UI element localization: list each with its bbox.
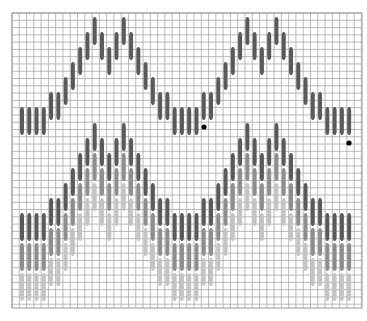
stitch	[202, 198, 206, 226]
stitch	[216, 243, 220, 271]
stitch	[340, 107, 344, 135]
stitch	[100, 32, 104, 60]
stitch	[78, 183, 82, 211]
stitch	[180, 243, 184, 271]
stitch	[267, 32, 271, 60]
stitch	[238, 168, 242, 196]
stitch	[136, 183, 140, 211]
stitch	[107, 183, 111, 211]
stitch	[267, 198, 271, 226]
stitch	[158, 198, 162, 226]
stitch	[224, 168, 228, 196]
stitch	[180, 213, 184, 241]
stitch	[311, 258, 315, 286]
stitch	[296, 168, 300, 196]
stitch	[347, 107, 351, 135]
stitch	[245, 153, 249, 181]
stitch	[71, 228, 75, 256]
stitch	[304, 243, 308, 271]
stitch	[304, 77, 308, 105]
stitch	[238, 138, 242, 166]
stitch	[56, 258, 60, 286]
stitch	[42, 273, 46, 301]
stitch	[202, 92, 206, 120]
stitch	[209, 92, 213, 120]
stitch	[151, 183, 155, 211]
stitch	[64, 77, 68, 105]
stitch	[202, 228, 206, 256]
stitch	[231, 153, 235, 181]
stitch	[296, 198, 300, 226]
stitch	[151, 213, 155, 241]
stitch	[231, 183, 235, 211]
stitch	[158, 92, 162, 120]
stitch	[151, 243, 155, 271]
stitch	[173, 273, 177, 301]
stitch	[158, 228, 162, 256]
stitch	[165, 92, 169, 120]
stitch	[71, 198, 75, 226]
stitch	[245, 17, 249, 45]
stitch	[136, 213, 140, 241]
stitch	[282, 198, 286, 226]
stitch	[35, 273, 39, 301]
stitch	[64, 213, 68, 241]
stitch	[100, 168, 104, 196]
stitch	[340, 273, 344, 301]
stitch	[20, 107, 24, 135]
stitch	[64, 183, 68, 211]
stitch	[260, 183, 264, 211]
stitch	[289, 153, 293, 181]
stitch	[274, 17, 278, 45]
stitch	[42, 213, 46, 241]
stitch	[129, 138, 133, 166]
stitch	[42, 107, 46, 135]
stitch	[304, 183, 308, 211]
stitch	[216, 183, 220, 211]
stitch	[93, 153, 97, 181]
stitch	[93, 123, 97, 151]
stitch	[231, 47, 235, 75]
stitch	[311, 198, 315, 226]
stitch	[296, 62, 300, 90]
stitch	[318, 258, 322, 286]
stitch	[274, 123, 278, 151]
stitch	[187, 107, 191, 135]
stitch	[85, 168, 89, 196]
stitch	[289, 183, 293, 211]
stitch	[274, 183, 278, 211]
stitch	[27, 107, 31, 135]
stitch	[274, 153, 278, 181]
stitch	[136, 47, 140, 75]
stitch	[49, 198, 53, 226]
stitch	[289, 47, 293, 75]
stitch	[100, 138, 104, 166]
stitch	[56, 92, 60, 120]
stitch	[78, 47, 82, 75]
stitch	[122, 153, 126, 181]
stitch	[20, 273, 24, 301]
stitch	[224, 198, 228, 226]
stitch	[347, 213, 351, 241]
stitch	[115, 138, 119, 166]
stitch	[216, 77, 220, 105]
stitch	[78, 153, 82, 181]
stitch	[194, 273, 198, 301]
stitch	[318, 92, 322, 120]
stitch	[115, 198, 119, 226]
stitch	[35, 213, 39, 241]
stitch	[100, 198, 104, 226]
stitch	[325, 243, 329, 271]
stitch	[311, 92, 315, 120]
stitch	[144, 228, 148, 256]
stitch	[144, 62, 148, 90]
stitch	[260, 47, 264, 75]
stitch	[20, 243, 24, 271]
lower-band	[20, 123, 351, 301]
start-dot-icon	[201, 124, 206, 129]
stitch	[238, 198, 242, 226]
stitch	[71, 62, 75, 90]
stitch	[282, 32, 286, 60]
stitch	[325, 107, 329, 135]
stitch	[333, 213, 337, 241]
